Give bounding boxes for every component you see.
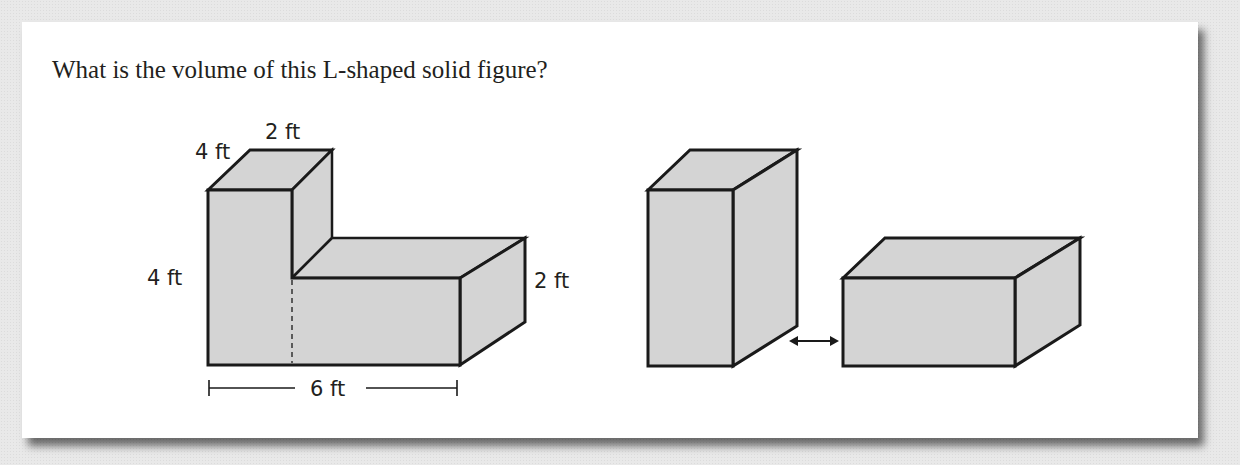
wide-prism <box>843 238 1080 366</box>
tall-prism <box>648 150 797 366</box>
l-front-face <box>208 190 460 365</box>
tall-side-face <box>733 150 797 366</box>
label-depth-top: 4 ft <box>195 140 230 164</box>
figures-canvas: 4 ft 2 ft 4 ft 2 ft 6 ft <box>0 0 1240 465</box>
double-arrow-icon <box>789 336 839 346</box>
label-height-right: 2 ft <box>534 269 569 293</box>
tall-front-face <box>648 190 733 366</box>
l-shaped-solid <box>208 150 525 365</box>
label-length-bottom: 6 ft <box>310 377 345 401</box>
wide-front-face <box>843 278 1015 366</box>
label-width-top: 2 ft <box>265 120 300 144</box>
label-height-left: 4 ft <box>147 266 182 290</box>
